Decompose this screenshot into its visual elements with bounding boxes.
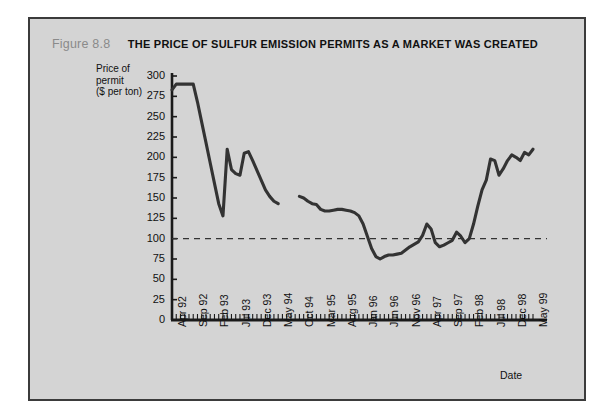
x-axis-tick-label: Dec 98	[516, 294, 528, 327]
x-axis-tick-label: Feb 93	[218, 294, 230, 327]
x-axis-tick-label: Jul 98	[495, 299, 507, 327]
x-axis-tick-label: Feb 98	[473, 294, 485, 327]
x-axis-tick-label: Mar 95	[325, 294, 337, 327]
x-axis-tick-label: Sep 92	[197, 294, 209, 327]
y-axis-tick-label: 250	[135, 110, 165, 122]
x-axis-tick-label: Jan 96	[367, 295, 379, 327]
x-axis-tick-label: Dec 93	[261, 294, 273, 327]
figure-panel: Figure 8.8 THE PRICE OF SULFUR EMISSION …	[28, 17, 586, 401]
y-axis-tick-label: 275	[135, 89, 165, 101]
y-axis-tick-label: 175	[135, 171, 165, 183]
y-axis-tick-label: 200	[135, 150, 165, 162]
x-axis-tick-label: May 99	[537, 293, 549, 327]
x-axis-tick-label: Jul 93	[240, 299, 252, 327]
x-axis-tick-label: May 94	[282, 293, 294, 327]
x-axis-tick-label: Jun 96	[388, 295, 400, 327]
y-axis-tick-label: 225	[135, 130, 165, 142]
y-axis-tick-label: 300	[135, 69, 165, 81]
x-axis-tick-label: Apr 97	[431, 296, 443, 327]
y-axis-tick-label: 150	[135, 191, 165, 203]
x-axis-tick-label: Sep 97	[452, 294, 464, 327]
x-axis-tick-label: Nov 96	[410, 294, 422, 327]
y-axis-tick-label: 50	[135, 272, 165, 284]
x-axis-tick-label: Aug 95	[346, 294, 358, 327]
y-axis-tick-label: 0	[135, 313, 165, 325]
y-axis-tick-label: 100	[135, 232, 165, 244]
y-axis-tick-label: 25	[135, 293, 165, 305]
y-axis-tick-label: 75	[135, 252, 165, 264]
chart-plot-area	[30, 19, 588, 403]
x-axis-tick-label: Oct 94	[303, 296, 315, 327]
x-axis-tick-label: Apr 92	[176, 296, 188, 327]
y-axis-tick-label: 125	[135, 211, 165, 223]
